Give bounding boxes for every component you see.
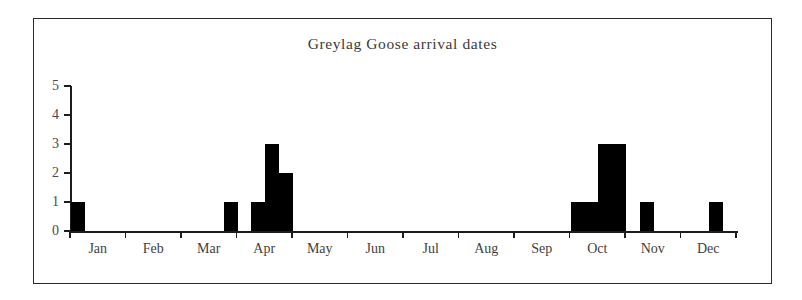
bar-oct-3	[598, 144, 612, 231]
y-tick-label-2: 2	[52, 166, 59, 180]
x-label-jul: Jul	[423, 241, 439, 257]
figure-frame: Greylag Goose arrival dates 012345 JanFe…	[33, 18, 772, 284]
x-tick-0	[69, 232, 71, 238]
bar-apr-2	[251, 202, 265, 231]
x-tick-7	[458, 232, 460, 238]
x-label-mar: Mar	[197, 241, 220, 257]
x-tick-1	[125, 232, 127, 238]
bar-nov-2	[640, 202, 654, 231]
x-tick-11	[680, 232, 682, 238]
y-tick-5: 5	[64, 85, 71, 87]
x-tick-9	[569, 232, 571, 238]
x-label-aug: Aug	[474, 241, 498, 257]
x-axis-line	[70, 231, 738, 233]
x-label-may: May	[307, 241, 333, 257]
x-tick-5	[347, 232, 349, 238]
x-label-apr: Apr	[253, 241, 275, 257]
x-tick-2	[180, 232, 182, 238]
bar-apr-3	[265, 144, 279, 231]
x-label-jan: Jan	[88, 241, 107, 257]
bar-mar-4	[224, 202, 238, 231]
x-tick-10	[624, 232, 626, 238]
chart-title: Greylag Goose arrival dates	[34, 35, 771, 53]
chart-page: Greylag Goose arrival dates 012345 JanFe…	[0, 0, 802, 300]
x-label-sep: Sep	[531, 241, 552, 257]
x-tick-12	[735, 232, 737, 238]
x-tick-3	[236, 232, 238, 238]
y-tick-3: 3	[64, 143, 71, 145]
x-label-nov: Nov	[641, 241, 665, 257]
bars-layer	[71, 86, 738, 231]
y-tick-2: 2	[64, 172, 71, 174]
bar-oct-4	[612, 144, 626, 231]
bar-oct-2	[584, 202, 598, 231]
x-label-feb: Feb	[143, 241, 164, 257]
x-tick-8	[513, 232, 515, 238]
bar-jan-1	[71, 202, 85, 231]
y-tick-label-1: 1	[52, 195, 59, 209]
x-label-oct: Oct	[587, 241, 607, 257]
y-tick-label-4: 4	[52, 108, 59, 122]
bar-dec-3	[709, 202, 723, 231]
y-tick-4: 4	[64, 114, 71, 116]
bar-apr-4	[279, 173, 293, 231]
bar-oct-1	[571, 202, 585, 231]
y-tick-1: 1	[64, 201, 71, 203]
x-label-jun: Jun	[366, 241, 385, 257]
x-tick-4	[291, 232, 293, 238]
x-label-dec: Dec	[697, 241, 720, 257]
y-tick-label-0: 0	[52, 224, 59, 238]
y-tick-label-3: 3	[52, 137, 59, 151]
x-tick-6	[402, 232, 404, 238]
y-tick-label-5: 5	[52, 79, 59, 93]
